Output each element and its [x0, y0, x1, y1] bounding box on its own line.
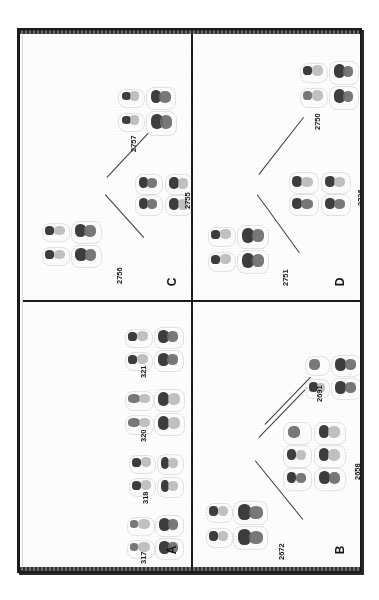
figure-canvas: 2757 2755: [0, 0, 379, 600]
label-c-2756: 2756: [115, 267, 124, 284]
label-d-2750: 2750: [313, 113, 322, 130]
plate-edge-texture-top: [19, 30, 360, 34]
cell-group-a-321: [123, 326, 185, 380]
label-c-2755: 2755: [183, 192, 191, 209]
label-a-320: 320: [139, 429, 148, 442]
cell-group-b-2658: [283, 422, 349, 494]
cell-group-c-2757: [116, 86, 176, 144]
panel-letter-b: B: [332, 543, 348, 557]
cell-group-d-2751: [207, 224, 269, 280]
label-a-318: 318: [141, 491, 150, 504]
panel-c: 2757 2755: [23, 34, 191, 300]
panel-b: 2691: [193, 302, 360, 571]
panel-a: 321 320: [23, 302, 191, 571]
cell-group-a-320: [123, 388, 185, 444]
cell-group-a-317: [125, 514, 185, 568]
panel-letter-a: A: [164, 543, 180, 557]
panel-letter-c: C: [164, 275, 180, 289]
label-a-321: 321: [139, 365, 148, 378]
label-c-2757: 2757: [129, 135, 138, 152]
cell-group-d-2736: [289, 172, 351, 224]
figure-plate: 2757 2755: [17, 28, 362, 573]
cell-group-b-2672: [205, 500, 269, 556]
label-b-2691: 2691: [315, 385, 324, 402]
panel-d: 2750 2736: [193, 34, 360, 300]
label-d-2736: 2736: [356, 189, 360, 206]
label-b-2658: 2658: [353, 463, 360, 480]
figure-plate-inner: 2757 2755: [22, 33, 357, 568]
cell-group-b-2691: [303, 354, 360, 406]
label-d-2751: 2751: [281, 269, 290, 286]
plate-edge-texture-bottom: [19, 567, 360, 571]
cell-group-c-2756: [41, 220, 103, 276]
cell-group-d-2750: [298, 60, 360, 118]
label-b-2672: 2672: [277, 543, 286, 560]
connector-d-2750: [258, 117, 304, 175]
panel-letter-d: D: [332, 275, 348, 289]
label-a-317: 317: [139, 551, 148, 564]
cell-group-a-318: [127, 452, 185, 506]
